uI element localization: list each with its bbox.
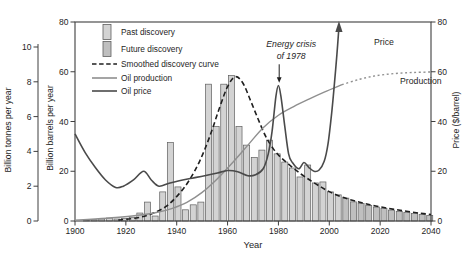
discovery-bar-past (267, 140, 273, 221)
svg-text:1900: 1900 (66, 226, 85, 236)
discovery-bar-past (205, 84, 211, 221)
discovery-bar-future (404, 213, 410, 221)
discovery-bar-past (259, 150, 265, 221)
svg-text:Production: Production (400, 76, 442, 86)
svg-text:Price: Price (374, 37, 394, 47)
svg-text:0: 0 (64, 216, 69, 226)
annotation-energy-crisis: Energy crisisof 1978 (266, 39, 316, 82)
left-axis-barrels: 020406080Billion barrels per year (45, 17, 75, 226)
discovery-bar-past (228, 75, 234, 221)
left-axis-tonnes: 0246810Billion tonnes per year (3, 42, 38, 226)
svg-text:1960: 1960 (218, 226, 237, 236)
left-outer-axis-title: Billion tonnes per year (3, 87, 13, 172)
discovery-bar-past (251, 158, 257, 221)
discovery-bar-future (396, 211, 402, 221)
discovery-bar-future (343, 198, 349, 221)
svg-text:10: 10 (22, 42, 32, 52)
legend-item: Past discovery (103, 25, 176, 40)
discovery-bar-past (175, 187, 181, 221)
svg-text:40: 40 (59, 117, 69, 127)
legend-label: Past discovery (121, 27, 176, 37)
legend-item: Future discovery (103, 42, 183, 57)
svg-text:20: 20 (438, 166, 448, 176)
svg-text:1980: 1980 (269, 226, 288, 236)
svg-text:40: 40 (438, 117, 448, 127)
discovery-bar-future (411, 214, 417, 221)
discovery-bar-past (190, 205, 196, 221)
discovery-bar-future (419, 215, 425, 221)
annotation-price-label: Price (374, 37, 394, 47)
discovery-bar-past (289, 168, 295, 221)
discovery-bar-future (427, 216, 433, 221)
discovery-bar-future (358, 204, 364, 221)
svg-text:1940: 1940 (167, 226, 186, 236)
right-axis-title: Price ($/barrel) (451, 91, 461, 148)
discovery-bar-past (183, 210, 189, 221)
svg-text:60: 60 (59, 67, 69, 77)
discovery-bar-future (373, 207, 379, 221)
price-arrowhead-icon (335, 21, 342, 32)
legend-item: Oil price (92, 86, 152, 96)
discovery-bar-past (198, 202, 204, 221)
svg-text:2000: 2000 (320, 226, 339, 236)
svg-text:20: 20 (59, 166, 69, 176)
chart-legend: Past discoveryFuture discoverySmoothed d… (92, 25, 219, 97)
svg-text:1920: 1920 (116, 226, 135, 236)
discovery-bar-past (297, 177, 303, 221)
oil-discovery-price-figure: 19001920194019601980200020202040Year0204… (0, 0, 472, 264)
discovery-bar-past (335, 195, 341, 221)
svg-text:2020: 2020 (371, 226, 390, 236)
legend-label: Oil production (121, 73, 173, 83)
discovery-bar-past (152, 216, 158, 221)
legend-label: Future discovery (121, 44, 183, 54)
bar-past-swatch-icon (103, 25, 111, 40)
discovery-bar-past (328, 192, 334, 221)
svg-text:0: 0 (438, 216, 443, 226)
svg-text:8: 8 (27, 77, 32, 87)
x-axis: 19001920194019601980200020202040Year (66, 221, 441, 250)
svg-text:80: 80 (438, 17, 448, 27)
discovery-bar-future (350, 202, 356, 221)
annotation-arrow-icon (277, 77, 282, 83)
discovery-bar-past (305, 165, 311, 221)
discovery-bar-past (312, 183, 318, 221)
left-inner-axis-title: Billion barrels per year (45, 85, 55, 171)
x-axis-title: Year (244, 240, 263, 250)
discovery-bar-past (274, 154, 280, 221)
svg-text:of 1978: of 1978 (277, 51, 306, 61)
legend-item: Smoothed discovery curve (92, 59, 219, 69)
svg-text:80: 80 (59, 17, 69, 27)
discovery-bar-future (389, 210, 395, 221)
svg-text:0: 0 (27, 216, 32, 226)
legend-label: Smoothed discovery curve (121, 59, 219, 69)
discovery-bar-past (244, 145, 250, 221)
oil-discovery-chart: 19001920194019601980200020202040Year0204… (0, 0, 472, 264)
svg-text:Energy crisis: Energy crisis (266, 39, 316, 49)
svg-text:6: 6 (27, 112, 32, 122)
svg-text:2: 2 (27, 181, 32, 191)
discovery-bar-past (144, 202, 150, 221)
legend-item: Oil production (92, 73, 173, 83)
discovery-bar-past (221, 84, 227, 221)
discovery-bars (83, 75, 432, 221)
bar-future-swatch-icon (103, 42, 111, 57)
legend-label: Oil price (121, 86, 152, 96)
svg-text:4: 4 (27, 146, 32, 156)
discovery-bar-future (366, 205, 372, 221)
right-axis-price: 020406080Price ($/barrel) (431, 17, 461, 226)
svg-text:2040: 2040 (422, 226, 441, 236)
annotation-production-label: Production (400, 76, 442, 86)
discovery-bar-past (282, 162, 288, 221)
discovery-bar-future (381, 209, 387, 221)
